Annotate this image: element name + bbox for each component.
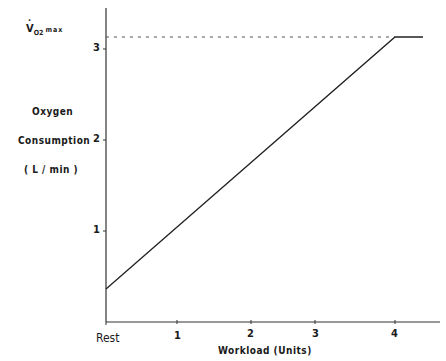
x-tick-label-1: 1: [174, 329, 181, 342]
y-axis-label-line3: ( L / min ): [24, 164, 78, 175]
x-axis-label: Workload (Units): [218, 345, 312, 356]
vo2-dot: ·: [28, 15, 31, 25]
chart-plot-area: [0, 0, 446, 361]
oxygen-consumption-line: [106, 37, 423, 289]
x-tick-label-rest: Rest: [96, 331, 119, 345]
vo2-sub-2: 2: [39, 29, 43, 37]
y-axis-label-line2: Consumption: [18, 135, 90, 146]
y-tick-label-3: 3: [93, 41, 100, 54]
x-tick-label-4: 4: [391, 327, 398, 340]
y-axis-label-line1: Oxygen: [32, 106, 73, 117]
vo2max-label: ·VO2max: [26, 22, 63, 37]
y-tick-label-2: 2: [93, 132, 100, 145]
x-tick-label-3: 3: [312, 327, 319, 340]
x-tick-label-2: 2: [247, 327, 254, 340]
y-tick-label-1: 1: [93, 223, 100, 236]
vo2-max-text: max: [45, 26, 63, 34]
